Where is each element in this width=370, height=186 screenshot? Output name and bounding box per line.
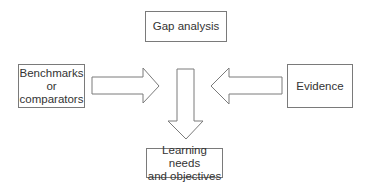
arrows-layer [0, 0, 370, 186]
down-arrow-icon [168, 69, 203, 139]
right-arrow-icon [92, 68, 159, 103]
left-arrow-icon [211, 68, 282, 104]
